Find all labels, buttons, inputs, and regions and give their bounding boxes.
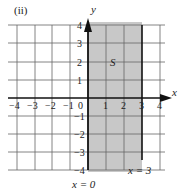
x-axis-label: x [171, 86, 177, 98]
svg-text:−4: −4 [9, 100, 20, 111]
svg-text:−2: −2 [74, 129, 85, 140]
svg-text:−1: −1 [63, 100, 74, 111]
line-label-x3: x = 3 [127, 164, 152, 176]
x-tick-labels: −4 −3 −2 −1 0 1 2 3 4 [9, 100, 162, 111]
svg-text:−1: −1 [74, 111, 85, 122]
svg-text:2: 2 [77, 57, 82, 68]
svg-text:4: 4 [77, 20, 82, 31]
svg-text:4: 4 [157, 100, 162, 111]
line-label-x0: x = 0 [71, 178, 96, 190]
svg-text:3: 3 [139, 100, 144, 111]
part-label: (ii) [14, 4, 28, 17]
region-diagram: (ii) x [0, 0, 181, 192]
svg-text:0: 0 [78, 100, 83, 111]
shaded-region-s [88, 22, 142, 172]
svg-text:−3: −3 [27, 100, 38, 111]
y-axis-label: y [90, 3, 96, 15]
svg-text:1: 1 [77, 75, 82, 86]
region-label-s: S [110, 56, 116, 68]
svg-text:3: 3 [77, 38, 82, 49]
svg-text:−2: −2 [45, 100, 56, 111]
svg-text:2: 2 [121, 100, 126, 111]
svg-text:−3: −3 [74, 147, 85, 158]
svg-text:−4: −4 [74, 165, 85, 176]
svg-text:1: 1 [103, 100, 108, 111]
